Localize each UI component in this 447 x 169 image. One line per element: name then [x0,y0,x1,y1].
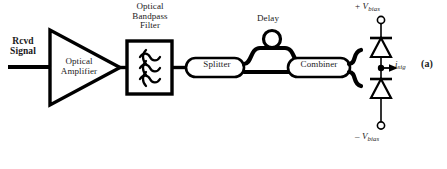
optical-receiver-diagram: · · · [0,0,447,169]
combiner-lower-output-arm [349,72,361,86]
bias-bottom-sign: – [355,131,360,141]
bias-top-sign: + [355,1,360,11]
delay-label: Delay [245,14,291,24]
bias-top-terminal [377,16,384,23]
bias-top-label: + Vbias [355,2,419,12]
combiner-label: Combiner [286,60,352,70]
photodiode-top [370,38,392,68]
optical-bandpass-filter-label: Optical Bandpass Filter [108,2,192,31]
bias-top-subscript: bias [368,5,380,12]
photodiode-bottom-anode-triangle [371,79,391,98]
splitter-label: Splitter [188,60,246,70]
received-signal-label: Rcvd Signal [2,36,44,57]
signal-current-subscript: sig [398,63,406,70]
optical-amplifier-label: Optical Amplifier [52,57,106,76]
bias-bottom-label: – Vbias [355,132,419,142]
bias-bottom-subscript: bias [368,135,380,142]
bias-bottom-terminal [377,122,384,129]
photodiode-top-anode-triangle [371,38,391,57]
delay-loop-symbol [264,31,281,48]
panel-label: (a) [421,59,445,70]
photodiode-bottom [370,79,392,122]
diagram-canvas [0,0,447,169]
